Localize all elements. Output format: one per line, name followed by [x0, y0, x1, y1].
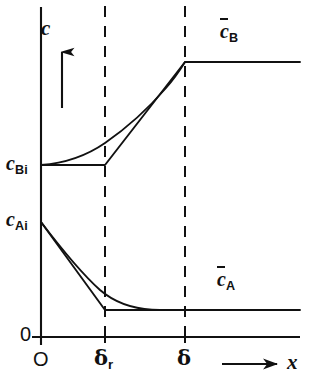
delta-r-tick-label: δr — [94, 347, 113, 369]
delta-symbol: δ — [177, 345, 191, 370]
c-B-bulk-label: cB — [220, 21, 238, 41]
c-Ai-symbol: c — [6, 208, 15, 230]
series-B — [41, 62, 300, 165]
curve-B-linear — [41, 62, 300, 165]
figure-canvas — [0, 0, 310, 383]
c-A-bulk-label: cA — [217, 269, 235, 289]
delta-tick-label: δ — [177, 347, 191, 369]
vertical-markers — [105, 6, 185, 344]
c-Bi-label: cBi — [6, 153, 28, 173]
c-A-bulk-symbol: c — [217, 268, 226, 290]
y-axis-symbol-label: c — [41, 18, 50, 39]
overbar-B — [220, 18, 227, 20]
series-A — [41, 222, 300, 310]
overbar-A — [217, 266, 224, 268]
x-axis-symbol-label: x — [287, 352, 298, 373]
axis-lines — [32, 7, 300, 345]
c-Ai-subscript: Ai — [15, 219, 28, 233]
curve-A-linear — [41, 222, 300, 310]
c-B-bulk-subscript: B — [229, 31, 238, 45]
x-axis-origin-label: O — [33, 349, 49, 369]
c-A-bulk-subscript: A — [226, 279, 235, 293]
delta-r-subscript: r — [108, 357, 113, 372]
concentration-profile-figure: c cBi cAi cB cA 0 O δr δ x — [0, 0, 310, 383]
delta-r-symbol: δ — [94, 345, 108, 370]
c-B-bulk-symbol-with-overbar: c — [220, 21, 229, 41]
c-Ai-label: cAi — [6, 209, 28, 229]
c-Bi-symbol: c — [6, 152, 15, 174]
y-axis-zero-label: 0 — [20, 324, 31, 344]
c-B-bulk-symbol: c — [220, 20, 229, 42]
curve-A-actual — [41, 222, 230, 310]
c-A-bulk-symbol-with-overbar: c — [217, 269, 226, 289]
c-Bi-subscript: Bi — [15, 163, 28, 177]
